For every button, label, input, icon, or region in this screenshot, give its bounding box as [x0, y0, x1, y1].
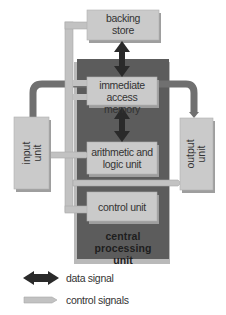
memory-line1: immediate access — [85, 79, 159, 103]
backing-store-label: backing store — [87, 12, 159, 36]
alu-line1: arithmetic and — [85, 146, 159, 158]
control-unit-text: control unit — [87, 201, 157, 213]
backing-store-line2: store — [87, 24, 159, 36]
memory-line2: memory — [85, 103, 159, 115]
control-bus-vertical — [65, 22, 73, 212]
control-unit-label: control unit — [87, 201, 157, 213]
control-bus-to-control-unit — [65, 206, 89, 213]
legend-control-signals-icon — [24, 297, 57, 303]
legend-data-signal-label: data signal — [66, 272, 114, 284]
output-unit-label: output unit — [185, 118, 207, 190]
control-bus-to-backing-store — [65, 22, 89, 29]
memory-label: immediate access memory — [85, 79, 159, 115]
input-unit-line2: unit — [32, 117, 43, 189]
cpu-label: central processing unit — [77, 230, 169, 266]
legend-data-signal-icon — [23, 271, 59, 285]
control-branch-input-alu — [50, 152, 89, 158]
alu-label: arithmetic and logic unit — [85, 146, 159, 170]
legend-control-signals-label: control signals — [66, 294, 129, 306]
cpu-line1: central processing — [77, 230, 169, 254]
cpu-line2: unit — [77, 254, 169, 266]
alu-line2: logic unit — [85, 158, 159, 170]
output-unit-line2: unit — [196, 118, 207, 190]
backing-store-line1: backing — [87, 12, 159, 24]
input-unit-label: input unit — [21, 117, 43, 189]
control-branch-to-output — [73, 180, 181, 186]
